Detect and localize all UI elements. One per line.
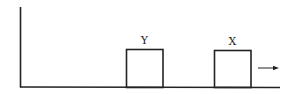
arrow-right-icon	[258, 66, 279, 70]
block-y-label: Y	[140, 34, 149, 47]
block-y	[127, 50, 164, 88]
block-x-label: X	[229, 35, 237, 48]
block-x	[215, 51, 252, 88]
diagram-canvas: Y X	[0, 0, 298, 94]
